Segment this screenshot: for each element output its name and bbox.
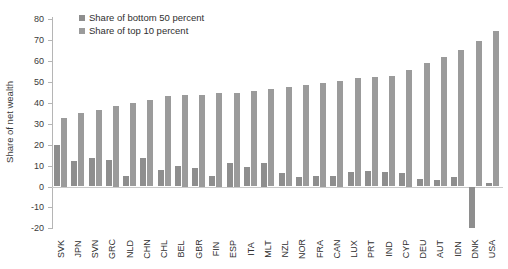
y-tick-label: -20 <box>16 223 44 233</box>
bar-top10-svn <box>96 110 102 186</box>
bar-top10-aut <box>441 57 447 187</box>
wealth-share-bar-chart: Share of net wealth Share of bottom 50 p… <box>0 0 508 269</box>
bar-bottom50-ind <box>382 172 388 187</box>
bar-bottom50-usa <box>486 183 492 186</box>
bar-top10-bel <box>182 95 188 187</box>
bar-bottom50-lux <box>348 172 354 187</box>
x-category-label-ind: IND <box>384 232 394 266</box>
bar-top10-dnk <box>476 41 482 186</box>
y-tick <box>48 228 52 229</box>
y-tick <box>48 61 52 62</box>
x-category-label-svk: SVK <box>56 232 66 266</box>
bar-top10-fin <box>216 93 222 187</box>
bar-bottom50-esp <box>227 163 233 187</box>
bar-top10-nor <box>303 85 309 186</box>
bar-bottom50-deu <box>417 179 423 186</box>
x-category-label-svn: SVN <box>90 232 100 266</box>
bar-top10-chn <box>147 100 153 187</box>
x-category-label-lux: LUX <box>349 232 359 266</box>
bar-bottom50-jpn <box>71 161 77 186</box>
bar-top10-cyp <box>406 70 412 187</box>
y-tick-label: 70 <box>16 35 44 45</box>
bar-bottom50-idn <box>451 177 457 186</box>
bar-bottom50-dnk <box>469 187 475 229</box>
bar-bottom50-nzl <box>279 173 285 187</box>
bar-bottom50-nld <box>123 176 129 186</box>
bar-top10-mlt <box>268 89 274 186</box>
bar-top10-fra <box>320 83 326 187</box>
y-tick <box>48 145 52 146</box>
bar-bottom50-cyp <box>399 173 405 187</box>
bar-top10-nzl <box>286 87 292 186</box>
legend-label-bottom50: Share of bottom 50 percent <box>89 12 204 23</box>
bar-top10-ita <box>251 91 257 186</box>
bar-bottom50-chn <box>140 158 146 186</box>
x-category-label-gbr: GBR <box>194 232 204 266</box>
bar-bottom50-mlt <box>261 163 267 187</box>
bar-bottom50-bel <box>175 166 181 187</box>
bar-bottom50-svn <box>89 158 95 186</box>
bar-top10-gbr <box>199 95 205 187</box>
bar-top10-idn <box>458 50 464 187</box>
bar-top10-nld <box>130 103 136 187</box>
y-tick <box>48 166 52 167</box>
bar-top10-deu <box>424 63 430 186</box>
x-category-label-esp: ESP <box>228 232 238 266</box>
x-category-label-cyp: CYP <box>401 232 411 266</box>
legend-item-top10: Share of top 10 percent <box>79 24 204 37</box>
bar-top10-chl <box>165 96 171 187</box>
x-category-label-can: CAN <box>332 232 342 266</box>
legend-swatch-top10-icon <box>79 28 85 34</box>
bar-top10-usa <box>493 31 499 187</box>
x-category-label-ita: ITA <box>246 232 256 266</box>
bar-top10-svk <box>61 118 67 187</box>
x-category-label-grc: GRC <box>107 232 117 266</box>
bar-top10-prt <box>372 77 378 187</box>
bar-bottom50-chl <box>158 170 164 187</box>
bar-bottom50-fin <box>209 176 215 186</box>
legend: Share of bottom 50 percent Share of top … <box>79 11 204 37</box>
bar-top10-grc <box>113 106 119 187</box>
y-tick <box>48 40 52 41</box>
zero-baseline <box>52 187 503 188</box>
x-category-label-prt: PRT <box>366 232 376 266</box>
x-category-label-chn: CHN <box>142 232 152 266</box>
y-axis-line <box>52 17 53 229</box>
y-tick-label: 50 <box>16 77 44 87</box>
x-category-label-dnk: DNK <box>470 232 480 266</box>
x-category-label-aut: AUT <box>435 232 445 266</box>
bar-top10-esp <box>234 93 240 187</box>
bar-bottom50-svk <box>54 145 60 187</box>
y-tick <box>48 103 52 104</box>
y-tick-label: 40 <box>16 98 44 108</box>
bar-top10-lux <box>355 78 361 187</box>
y-tick-label: 60 <box>16 56 44 66</box>
y-tick-label: -10 <box>16 202 44 212</box>
x-category-label-nld: NLD <box>125 232 135 266</box>
y-tick-label: 30 <box>16 119 44 129</box>
bar-top10-can <box>337 81 343 187</box>
y-tick-label: 20 <box>16 140 44 150</box>
bar-bottom50-aut <box>434 180 440 186</box>
x-category-label-deu: DEU <box>418 232 428 266</box>
y-tick-label: 80 <box>16 14 44 24</box>
x-category-label-nzl: NZL <box>280 232 290 266</box>
y-tick-label: 0 <box>16 182 44 192</box>
bar-bottom50-fra <box>313 176 319 186</box>
x-category-label-bel: BEL <box>176 232 186 266</box>
bar-bottom50-prt <box>365 171 371 187</box>
y-tick <box>48 187 52 188</box>
bar-bottom50-gbr <box>192 168 198 187</box>
bar-bottom50-nor <box>296 177 302 186</box>
bar-bottom50-grc <box>106 160 112 186</box>
x-category-label-chl: CHL <box>159 232 169 266</box>
legend-swatch-bottom50-icon <box>79 15 85 21</box>
y-tick <box>48 82 52 83</box>
bar-top10-jpn <box>78 113 84 186</box>
y-tick <box>48 124 52 125</box>
x-category-label-fra: FRA <box>315 232 325 266</box>
y-tick <box>48 19 52 20</box>
bar-bottom50-can <box>330 176 336 186</box>
x-category-label-jpn: JPN <box>73 232 83 266</box>
x-category-label-nor: NOR <box>297 232 307 266</box>
